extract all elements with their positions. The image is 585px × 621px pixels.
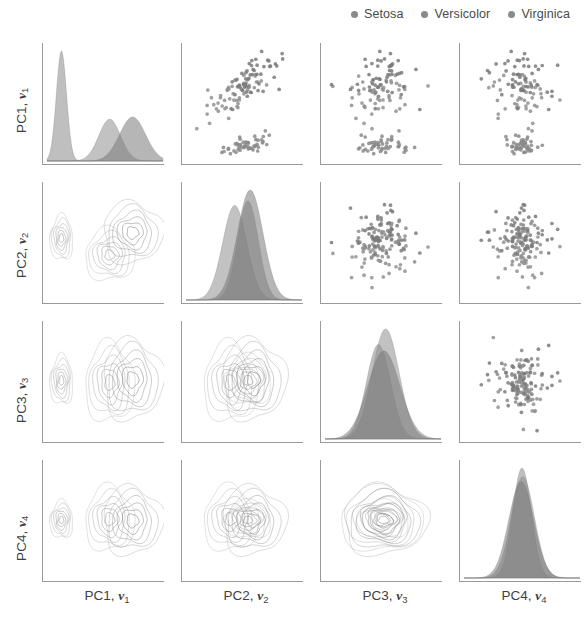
panel-pc2-pc1-contour xyxy=(42,182,164,304)
x-axis-label-pc4: PC4, v4 xyxy=(459,588,585,605)
panel-pc4-pc4-density xyxy=(459,460,581,582)
x-axis-label-pc1: PC1, v1 xyxy=(42,588,172,605)
y-axis-label-pc3: PC3, v3 xyxy=(14,335,31,465)
y-axis-label-pc1: PC1, v1 xyxy=(14,45,31,175)
legend-label: Setosa xyxy=(364,7,404,21)
legend-item-virginica[interactable]: Virginica xyxy=(508,7,570,21)
legend-label: Versicolor xyxy=(434,7,490,21)
panel-pc1-pc1-density xyxy=(42,43,164,165)
legend-marker-icon xyxy=(351,11,358,18)
legend: Setosa Versicolor Virginica xyxy=(300,4,570,24)
y-axis-label-pc4: PC4, v4 xyxy=(14,473,31,603)
panel-pc1-pc2-scatter xyxy=(181,43,303,165)
panel-pc1-pc3-scatter xyxy=(320,43,442,165)
y-axis-label-pc2: PC2, v2 xyxy=(14,190,31,320)
x-axis-label-pc2: PC2, v2 xyxy=(181,588,311,605)
panel-pc3-pc3-density xyxy=(320,321,442,443)
legend-marker-icon xyxy=(508,11,515,18)
legend-item-setosa[interactable]: Setosa xyxy=(351,7,404,21)
panel-pc2-pc2-density xyxy=(181,182,303,304)
panel-pc4-pc2-contour xyxy=(181,460,303,582)
panel-pc4-pc3-contour xyxy=(320,460,442,582)
panel-pc3-pc1-contour xyxy=(42,321,164,443)
panel-pc1-pc4-scatter xyxy=(459,43,581,165)
legend-item-versicolor[interactable]: Versicolor xyxy=(421,7,490,21)
legend-marker-icon xyxy=(421,11,428,18)
legend-label: Virginica xyxy=(521,7,570,21)
panel-pc3-pc4-scatter xyxy=(459,321,581,443)
panel-pc4-pc1-contour xyxy=(42,460,164,582)
panel-pc3-pc2-contour xyxy=(181,321,303,443)
panel-pc2-pc3-scatter xyxy=(320,182,442,304)
panel-pc2-pc4-scatter xyxy=(459,182,581,304)
x-axis-label-pc3: PC3, v3 xyxy=(320,588,450,605)
